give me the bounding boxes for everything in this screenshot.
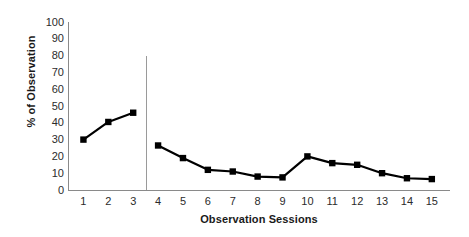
data-point-marker	[304, 153, 310, 159]
data-point-marker	[329, 160, 335, 166]
y-tick-label: 70	[30, 67, 64, 78]
y-tick-label: 10	[30, 168, 64, 179]
data-point-marker	[354, 162, 360, 168]
x-axis-title: Observation Sessions	[68, 213, 450, 225]
x-tick-label: 15	[417, 196, 447, 207]
y-tick-label: 100	[30, 17, 64, 28]
y-tick-label: 50	[30, 101, 64, 112]
data-point-marker	[155, 142, 161, 148]
data-point-marker	[279, 174, 285, 180]
series-markers	[80, 110, 435, 183]
y-tick-label: 60	[30, 84, 64, 95]
y-tick-label: 20	[30, 151, 64, 162]
data-point-marker	[429, 176, 435, 182]
y-axis-tick-labels: 1009080706050403020100	[30, 0, 64, 237]
phase-divider-line	[146, 56, 147, 190]
y-axis-line	[68, 22, 69, 191]
y-tick-label: 30	[30, 134, 64, 145]
y-tick-label: 40	[30, 117, 64, 128]
data-point-marker	[130, 110, 136, 116]
y-tick-label: 80	[30, 50, 64, 61]
chart-container: % of Observation 1009080706050403020100 …	[0, 0, 469, 237]
data-point-marker	[180, 155, 186, 161]
data-point-marker	[80, 136, 86, 142]
series-line-baseline	[83, 113, 133, 140]
y-tick-label: 0	[30, 185, 64, 196]
data-point-marker	[404, 175, 410, 181]
x-axis-line	[68, 190, 450, 191]
data-point-marker	[254, 173, 260, 179]
data-point-marker	[230, 168, 236, 174]
data-point-marker	[379, 170, 385, 176]
data-point-marker	[205, 167, 211, 173]
y-tick-label: 90	[30, 33, 64, 44]
data-point-marker	[105, 119, 111, 125]
series-line-intervention	[158, 145, 432, 179]
